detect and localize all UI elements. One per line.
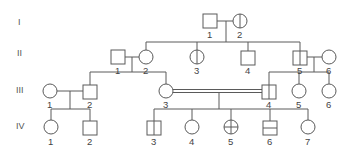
male-square-icon (203, 14, 217, 28)
individual-IV-4: 4 (185, 120, 199, 147)
svg-text:6: 6 (267, 136, 272, 147)
female-circle-icon (139, 50, 153, 64)
svg-text:4: 4 (266, 99, 271, 110)
generation-IV: 1 2 3 4 5 6 7 (44, 120, 315, 147)
svg-text:3: 3 (163, 99, 168, 110)
male-square-icon (111, 50, 125, 64)
female-circle-icon (322, 50, 336, 64)
pedigree-chart: I II III IV (0, 0, 351, 151)
svg-text:6: 6 (326, 99, 331, 110)
svg-text:7: 7 (305, 136, 310, 147)
svg-text:2: 2 (237, 29, 242, 40)
generation-label-I: I (18, 17, 21, 27)
svg-text:6: 6 (326, 65, 331, 76)
female-circle-icon (43, 84, 57, 98)
generation-label-IV: IV (16, 121, 25, 131)
individual-III-6: 6 (322, 84, 336, 110)
svg-text:1: 1 (207, 29, 212, 40)
generation-II: 1 2 3 4 5 6 (111, 50, 336, 76)
relationship-lines (51, 21, 329, 121)
generation-I: 1 2 (203, 14, 247, 40)
svg-text:2: 2 (87, 136, 92, 147)
individual-III-3: 3 (159, 84, 173, 110)
male-square-icon (83, 85, 97, 99)
generation-label-II: II (17, 48, 22, 58)
male-square-icon (241, 51, 255, 65)
individual-III-2: 2 (83, 85, 97, 110)
individual-I-2: 2 (233, 14, 247, 40)
svg-text:2: 2 (143, 65, 148, 76)
generation-labels: I II III IV (16, 17, 25, 131)
svg-text:1: 1 (48, 136, 53, 147)
generation-III: 1 2 3 4 5 6 (43, 84, 336, 110)
individual-III-4: 4 (262, 85, 276, 110)
individual-II-3: 3 (190, 50, 204, 76)
svg-text:3: 3 (194, 65, 199, 76)
individual-I-1: 1 (203, 14, 217, 40)
individual-III-5: 5 (292, 84, 306, 110)
svg-text:4: 4 (189, 136, 194, 147)
svg-text:2: 2 (87, 99, 92, 110)
female-circle-icon (301, 120, 315, 134)
svg-text:1: 1 (47, 99, 52, 110)
female-circle-icon (292, 84, 306, 98)
individual-IV-2: 2 (83, 121, 97, 147)
female-circle-icon (322, 84, 336, 98)
svg-text:5: 5 (228, 136, 233, 147)
individual-IV-1: 1 (44, 120, 58, 147)
individual-II-4: 4 (241, 51, 255, 76)
female-circle-icon (44, 120, 58, 134)
svg-text:5: 5 (297, 65, 302, 76)
generation-label-III: III (16, 85, 24, 95)
individual-IV-6: 6 (263, 121, 277, 147)
svg-text:4: 4 (245, 65, 250, 76)
individual-IV-7: 7 (301, 120, 315, 147)
female-circle-icon (159, 84, 173, 98)
individual-IV-5: 5 (224, 120, 238, 147)
female-circle-icon (185, 120, 199, 134)
individual-III-1: 1 (43, 84, 57, 110)
svg-text:1: 1 (115, 65, 120, 76)
male-square-icon (83, 121, 97, 135)
svg-text:3: 3 (151, 136, 156, 147)
individual-IV-3: 3 (147, 121, 161, 147)
svg-text:5: 5 (296, 99, 301, 110)
